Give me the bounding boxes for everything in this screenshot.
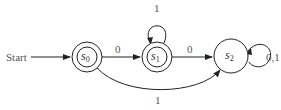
edge-s2-s2-label: 0,1 xyxy=(266,51,280,63)
edge-s0-s2-label: 1 xyxy=(155,94,161,106)
state-s2: s2 xyxy=(214,39,248,73)
edge-s0-s1-label: 0 xyxy=(115,43,121,55)
edge-s1-s2-label: 0 xyxy=(187,43,193,55)
edge-s1-s1-label: 1 xyxy=(154,2,160,14)
state-s1: s1 xyxy=(142,42,172,72)
start-label: Start xyxy=(6,51,27,63)
fsa-diagram: Start 0 1 0 0,1 1 s0 s1 s2 xyxy=(0,0,281,110)
state-s0: s0 xyxy=(72,42,102,72)
